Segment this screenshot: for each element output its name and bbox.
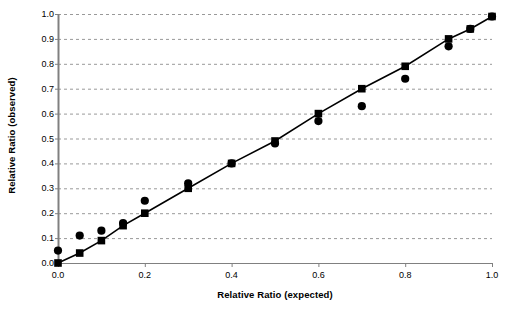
data-point-square	[76, 249, 84, 257]
data-point-circle	[401, 75, 409, 83]
data-point-square	[401, 62, 409, 70]
data-point-circle	[314, 117, 322, 125]
data-point-square	[119, 222, 127, 230]
data-point-square	[98, 237, 106, 245]
data-point-circle	[76, 232, 84, 240]
data-point-square	[141, 209, 149, 217]
data-point-square	[445, 35, 453, 43]
data-point-circle	[97, 227, 105, 235]
data-point-square	[54, 259, 62, 267]
data-point-square	[315, 110, 323, 118]
data-point-circle	[358, 102, 366, 110]
series-circles-points	[54, 12, 496, 254]
chart-container: Relative Ratio (observed) 0.00.10.20.30.…	[0, 0, 510, 312]
data-point-square	[228, 160, 236, 168]
data-point-circle	[141, 197, 149, 205]
data-point-circle	[54, 246, 62, 254]
data-point-square	[467, 25, 475, 33]
data-point-square	[488, 13, 496, 21]
data-point-square	[358, 85, 366, 93]
x-axis-title: Relative Ratio (expected)	[58, 289, 492, 300]
plot-area	[0, 0, 510, 312]
data-point-square	[271, 137, 279, 145]
data-point-circle	[445, 42, 453, 50]
data-point-square	[184, 185, 192, 193]
